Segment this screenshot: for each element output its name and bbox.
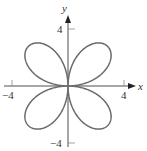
y-tick-label-neg4: −4	[50, 137, 62, 149]
y-tick-label-pos4: 4	[57, 23, 63, 35]
x-axis-arrow-icon	[128, 83, 136, 89]
y-axis-label: y	[61, 2, 67, 14]
polar-rose-plot: x y −4 4 4 −4	[0, 0, 147, 151]
x-tick-label-neg4: −4	[2, 89, 14, 101]
x-axis-label: x	[137, 80, 143, 92]
y-axis-arrow-icon	[65, 15, 71, 23]
x-tick-label-pos4: 4	[121, 89, 127, 101]
